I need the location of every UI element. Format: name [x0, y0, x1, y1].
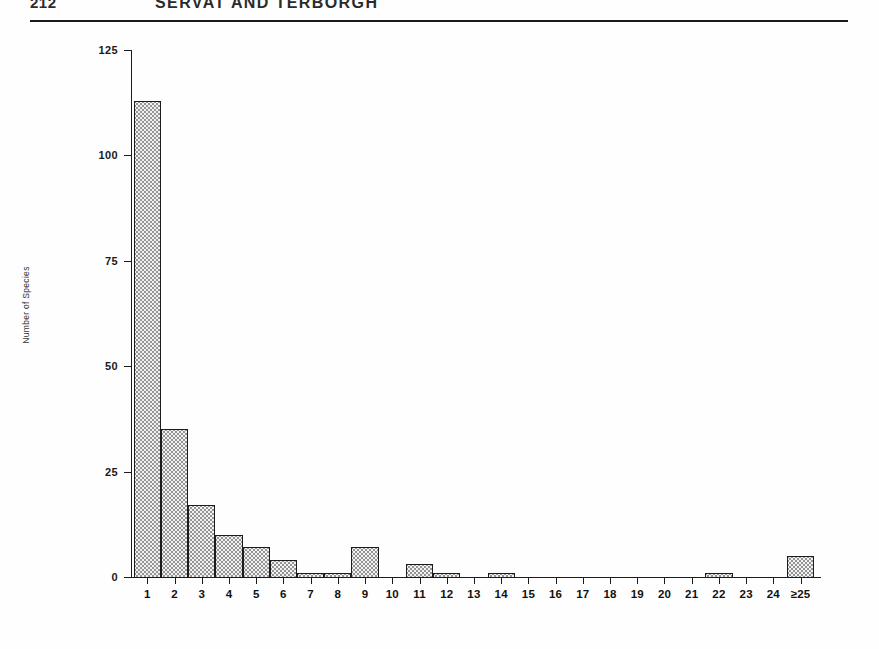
- x-tick: [392, 577, 393, 584]
- bar: [297, 573, 324, 577]
- y-tick-label-text: 125: [78, 44, 118, 56]
- x-axis-line: [131, 577, 821, 578]
- x-tick: [801, 577, 802, 584]
- y-tick-label: 125: [72, 44, 118, 56]
- bar: [705, 573, 732, 577]
- running-head: 212 SERVAT AND TERBORGH: [0, 0, 879, 20]
- x-tick: [501, 577, 502, 584]
- x-tick: [338, 577, 339, 584]
- bar: [215, 535, 242, 577]
- y-tick: [124, 366, 132, 367]
- bar: [188, 505, 215, 577]
- x-tick: [202, 577, 203, 584]
- x-tick: [583, 577, 584, 584]
- x-tick: [474, 577, 475, 584]
- x-tick: [692, 577, 693, 584]
- x-tick: [147, 577, 148, 584]
- x-tick: [719, 577, 720, 584]
- x-tick: [556, 577, 557, 584]
- x-tick: [773, 577, 774, 584]
- x-tick: [746, 577, 747, 584]
- x-tick-label: ≥25: [784, 588, 818, 600]
- x-tick: [637, 577, 638, 584]
- y-axis-line: [131, 50, 132, 578]
- y-tick-label: 50: [72, 360, 118, 372]
- y-tick-label-text: 50: [78, 360, 118, 372]
- bar: [406, 564, 433, 577]
- y-tick: [124, 50, 132, 51]
- bar: [324, 573, 351, 577]
- y-tick: [124, 577, 132, 578]
- y-tick: [124, 155, 132, 156]
- page: 212 SERVAT AND TERBORGH Number of Specie…: [0, 0, 879, 649]
- bar: [270, 560, 297, 577]
- x-tick: [311, 577, 312, 584]
- x-tick: [447, 577, 448, 584]
- y-tick: [124, 261, 132, 262]
- bar: [488, 573, 515, 577]
- bar: [161, 429, 188, 577]
- x-tick: [365, 577, 366, 584]
- figure-histogram: Number of Species 0255075100125 12345678…: [0, 22, 879, 622]
- x-tick: [283, 577, 284, 584]
- running-head-title: SERVAT AND TERBORGH: [155, 0, 378, 12]
- y-tick-label: 0: [72, 571, 118, 583]
- x-tick: [229, 577, 230, 584]
- y-tick-label-text: 25: [78, 466, 118, 478]
- bar: [134, 101, 161, 577]
- y-axis-title: Number of Species: [21, 245, 31, 365]
- y-tick-label: 75: [72, 255, 118, 267]
- bar: [351, 547, 378, 577]
- bar: [243, 547, 270, 577]
- y-tick-label-text: 100: [78, 149, 118, 161]
- x-tick: [175, 577, 176, 584]
- x-tick: [528, 577, 529, 584]
- bar: [787, 556, 814, 577]
- y-tick-label-text: 0: [78, 571, 118, 583]
- x-tick: [610, 577, 611, 584]
- y-tick-label: 25: [72, 466, 118, 478]
- x-tick: [256, 577, 257, 584]
- bar: [433, 573, 460, 577]
- y-tick-label: 100: [72, 149, 118, 161]
- x-tick: [664, 577, 665, 584]
- x-tick: [420, 577, 421, 584]
- y-tick-label-text: 75: [78, 255, 118, 267]
- plot-area: Number of Species 0255075100125 12345678…: [0, 22, 879, 622]
- page-folio: 212: [30, 0, 57, 11]
- y-tick: [124, 472, 132, 473]
